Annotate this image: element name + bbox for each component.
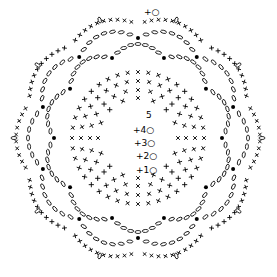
chain-icon	[118, 30, 124, 34]
chain-icon	[54, 176, 59, 183]
chain-icon	[218, 64, 224, 71]
chain-icon	[46, 164, 51, 171]
chain-icon	[143, 33, 149, 36]
row-label: +4○	[133, 126, 154, 135]
chain-icon	[46, 106, 51, 113]
chain-icon	[40, 183, 45, 190]
chain-icon	[245, 126, 248, 132]
chain-icon	[128, 229, 134, 232]
chain-icon	[190, 211, 197, 217]
chain-icon	[60, 89, 66, 96]
slip-stitch-icon	[68, 87, 72, 91]
chain-icon	[80, 47, 87, 53]
chain-icon	[176, 236, 183, 241]
chain-icon	[211, 59, 217, 65]
chain-icon	[109, 242, 116, 246]
chain-icon	[235, 208, 242, 214]
chain-icon	[142, 43, 148, 46]
chain-icon	[231, 86, 236, 93]
chain-icon	[235, 62, 242, 68]
chain-icon	[225, 106, 230, 113]
chain-icon	[195, 206, 202, 212]
chain-icon	[169, 240, 176, 245]
chain-icon	[45, 156, 49, 163]
chain-icon	[228, 192, 234, 199]
chain-icon	[222, 170, 227, 177]
chain-icon	[168, 54, 175, 59]
chain-icon	[35, 110, 39, 117]
chain-icon	[231, 95, 236, 102]
crochet-diagram: +1○+2○+3○+4○5+○	[0, 0, 277, 277]
slip-stitch-icon	[77, 55, 81, 59]
chain-icon	[199, 70, 205, 76]
chain-icon	[247, 135, 250, 141]
chain-icon	[202, 192, 208, 199]
chain-icon	[86, 231, 93, 236]
chain-icon	[49, 170, 54, 177]
chain-icon	[202, 56, 209, 62]
chain-icon	[42, 192, 48, 199]
row-label: +○	[144, 8, 159, 17]
chain-icon	[242, 118, 246, 124]
chain-icon	[231, 183, 236, 190]
chain-icon	[195, 64, 202, 70]
chain-icon	[202, 214, 209, 220]
chain-icon	[70, 70, 76, 76]
chain-icon	[101, 31, 108, 36]
chain-icon	[149, 46, 155, 50]
chain-icon	[86, 40, 93, 45]
chain-icon	[135, 43, 141, 46]
chain-icon	[237, 159, 241, 166]
slip-stitch-icon	[231, 167, 235, 171]
chain-icon	[176, 35, 183, 40]
chain-icon	[127, 240, 133, 243]
chain-icon	[226, 121, 230, 127]
chain-icon	[59, 59, 65, 65]
chain-icon	[68, 78, 74, 85]
chain-icon	[80, 224, 87, 230]
chain-icon	[40, 174, 45, 181]
slip-stitch-icon	[162, 56, 166, 60]
chain-icon	[97, 17, 102, 24]
slip-stitch-icon	[41, 167, 45, 171]
slip-stitch-icon	[195, 217, 199, 221]
chain-icon	[52, 64, 58, 71]
chain-icon	[127, 33, 133, 36]
slip-stitch-icon	[204, 185, 208, 189]
chain-icon	[224, 70, 230, 77]
chain-icon	[135, 231, 141, 234]
chain-icon	[142, 229, 148, 232]
slip-stitch-icon	[220, 136, 224, 140]
slip-stitch-icon	[77, 217, 81, 221]
chain-icon	[183, 215, 190, 221]
chain-icon	[149, 226, 155, 230]
chain-icon	[227, 156, 231, 163]
chain-icon	[160, 30, 167, 34]
chain-icon	[74, 64, 81, 70]
chain-icon	[70, 199, 76, 205]
slip-stitch-icon	[204, 87, 208, 91]
chain-icon	[211, 211, 217, 217]
chain-icon	[49, 128, 52, 134]
chain-icon	[79, 59, 86, 65]
chain-icon	[202, 78, 208, 85]
chain-icon	[242, 152, 246, 158]
chain-icon	[168, 217, 175, 222]
chain-icon	[174, 17, 179, 24]
chain-icon	[210, 181, 216, 188]
row-label: +3○	[134, 139, 155, 148]
chain-icon	[169, 31, 176, 36]
chain-icon	[46, 70, 52, 77]
chain-icon	[225, 164, 230, 171]
chain-icon	[128, 43, 134, 46]
chain-icon	[190, 59, 197, 65]
slip-stitch-icon	[110, 216, 114, 220]
chain-icon	[30, 152, 34, 158]
chain-icon	[74, 206, 81, 212]
chain-icon	[40, 95, 45, 102]
slip-stitch-icon	[195, 55, 199, 59]
chain-icon	[216, 176, 221, 183]
chain-icon	[152, 242, 158, 246]
chain-icon	[114, 221, 121, 225]
chain-icon	[174, 253, 179, 260]
